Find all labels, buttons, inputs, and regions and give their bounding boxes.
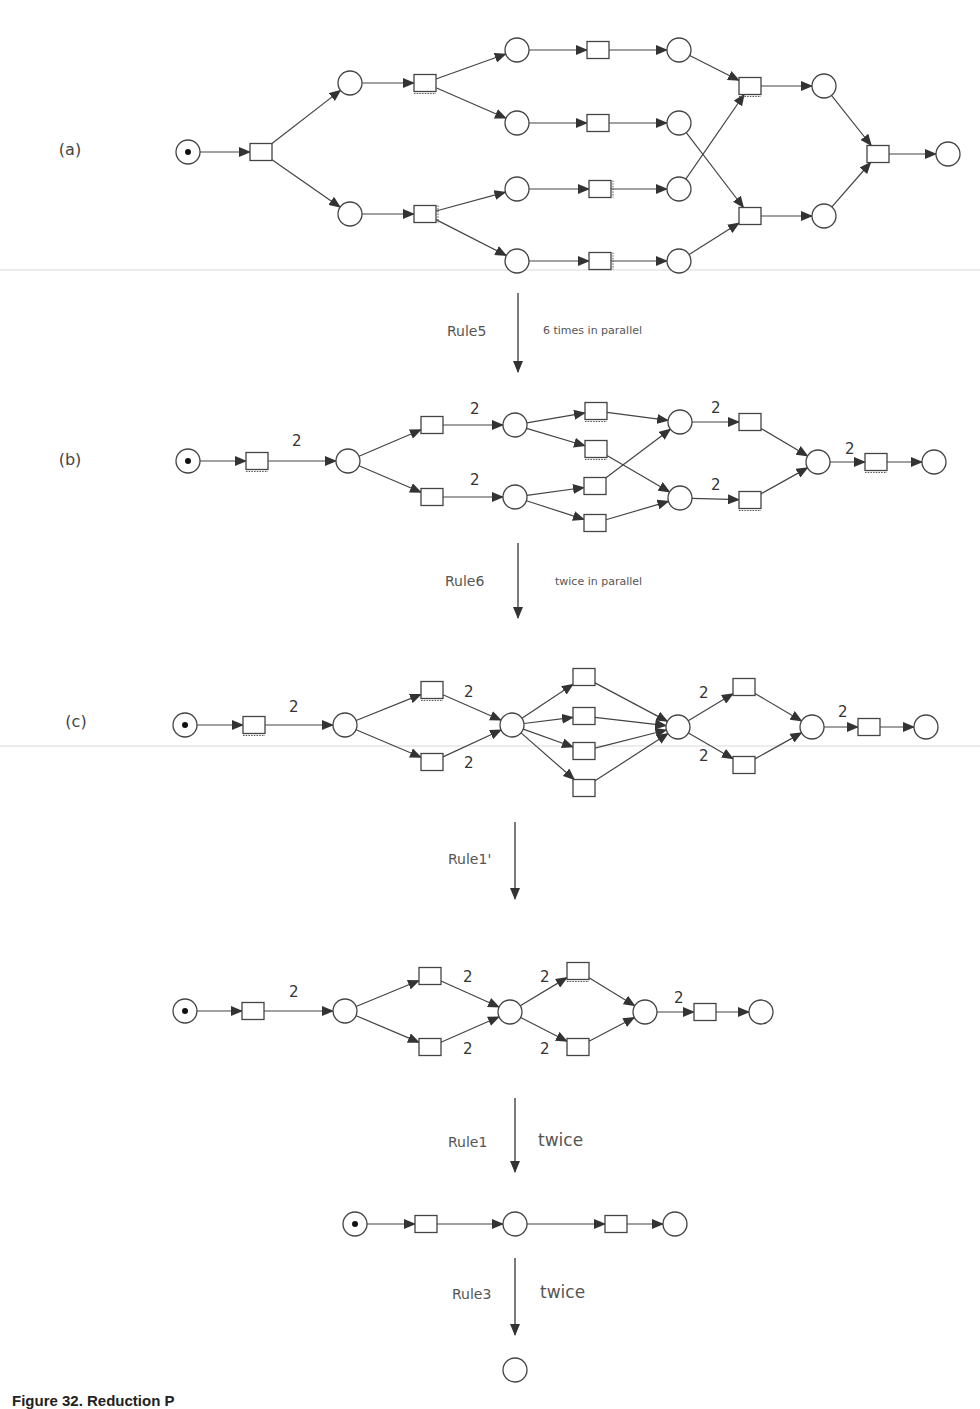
reduction-step-5: Rule3twice — [452, 1258, 585, 1335]
transition — [733, 757, 755, 774]
place — [503, 485, 527, 509]
net-label-b: (b) — [59, 450, 82, 469]
arc — [526, 501, 584, 520]
arc — [272, 160, 340, 207]
place — [667, 38, 691, 62]
transition — [242, 1003, 264, 1020]
arc — [607, 412, 668, 420]
place — [922, 450, 946, 474]
transition — [414, 206, 436, 223]
arc-weight: 2 — [699, 684, 709, 702]
token-dot — [185, 149, 191, 155]
rule-label: Rule1' — [448, 851, 491, 867]
arc-weight: 2 — [540, 968, 550, 986]
transition — [865, 454, 887, 471]
arc — [356, 730, 421, 758]
scan-artifacts — [0, 270, 980, 746]
arc-weight: 2 — [289, 698, 299, 716]
petri-net-c: 222222(c) — [65, 669, 938, 797]
arc — [607, 455, 670, 492]
arc — [761, 468, 808, 494]
transition — [573, 708, 595, 725]
place — [800, 715, 824, 739]
arc-weight: 2 — [470, 400, 480, 418]
arc-weight: 2 — [540, 1040, 550, 1058]
place — [633, 1000, 657, 1024]
arc-weight: 2 — [470, 471, 480, 489]
place — [500, 713, 524, 737]
arc — [436, 192, 505, 211]
arc — [272, 90, 341, 143]
arc — [441, 1017, 499, 1042]
place — [505, 38, 529, 62]
arc-weight: 2 — [464, 754, 474, 772]
arc — [436, 220, 506, 256]
transition — [694, 1004, 716, 1021]
arc-weight: 2 — [463, 1040, 473, 1058]
petri-net-e — [343, 1212, 687, 1236]
arc — [523, 729, 573, 747]
arc — [436, 88, 506, 118]
petri-nets: (a)222222(b)222222(c)222222 — [59, 38, 960, 1382]
arc-weight: 2 — [711, 399, 721, 417]
place — [333, 713, 357, 737]
transition — [421, 489, 443, 506]
transition — [589, 181, 611, 198]
arc — [521, 1017, 567, 1041]
arc — [831, 95, 871, 145]
transition — [421, 754, 443, 771]
arc — [527, 488, 584, 496]
arc — [524, 717, 573, 723]
arc — [688, 694, 733, 721]
place — [667, 111, 691, 135]
place — [668, 486, 692, 510]
place — [336, 449, 360, 473]
arc-weight: 2 — [464, 683, 474, 701]
place — [505, 177, 529, 201]
place — [503, 413, 527, 437]
petri-net-a: (a) — [59, 38, 960, 273]
transition — [733, 679, 755, 696]
arc — [527, 413, 585, 423]
arc-weight: 2 — [711, 476, 721, 494]
reduction-step-1: Rule56 times in parallel — [447, 293, 642, 372]
transition — [573, 780, 595, 797]
reduction-step-3: Rule1' — [448, 822, 515, 899]
transition — [567, 963, 589, 980]
arc-weight: 2 — [845, 440, 855, 458]
transition — [250, 144, 272, 161]
transition — [419, 968, 441, 985]
place — [505, 249, 529, 273]
transition — [415, 1216, 437, 1233]
arc — [692, 498, 739, 499]
rule-note: twice — [540, 1282, 585, 1302]
place — [806, 450, 830, 474]
arc-weight: 2 — [463, 968, 473, 986]
arc — [436, 54, 506, 79]
arc — [527, 428, 585, 445]
place — [338, 202, 362, 226]
transition — [605, 1216, 627, 1233]
place — [333, 999, 357, 1023]
arc — [761, 428, 808, 455]
place — [667, 177, 691, 201]
petri-net-b: 222222(b) — [59, 399, 946, 532]
arc — [595, 717, 666, 725]
place — [667, 249, 691, 273]
arc — [832, 163, 871, 207]
transition — [419, 1039, 441, 1056]
net-label-a: (a) — [59, 140, 81, 159]
arc-weight: 2 — [674, 989, 684, 1007]
arc — [595, 683, 667, 722]
rule-label: Rule3 — [452, 1286, 491, 1302]
rule-label: Rule5 — [447, 323, 486, 339]
figure-caption: Figure 32. Reduction P — [12, 1392, 175, 1409]
place — [503, 1212, 527, 1236]
place — [668, 410, 692, 434]
transition — [739, 414, 761, 431]
transition — [573, 669, 595, 686]
transition — [421, 682, 443, 699]
arc — [755, 693, 802, 720]
place — [663, 1212, 687, 1236]
